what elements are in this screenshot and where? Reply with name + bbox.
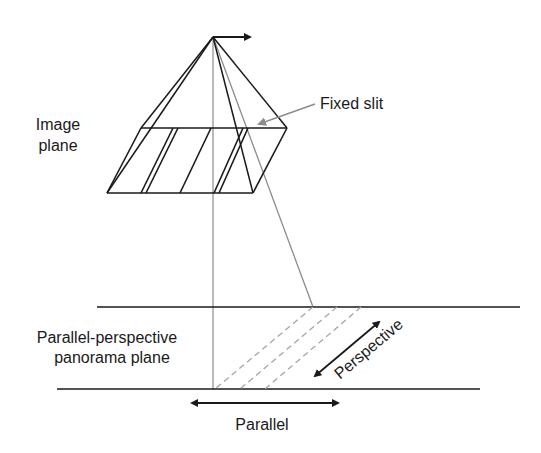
perspective-label: Perspective (331, 315, 406, 382)
diagram-canvas: Image plane Fixed slit Parallel-perspect… (0, 0, 541, 453)
image-plane-label-line1: Image (36, 116, 81, 133)
image-plane-label-line2: plane (38, 137, 77, 154)
image-plane (107, 128, 287, 193)
parallel-label: Parallel (235, 416, 288, 433)
view-pyramid (107, 37, 287, 193)
fixed-slit-pointer (259, 104, 315, 124)
panorama-plane-label-line1: Parallel-perspective (37, 329, 178, 346)
panorama-plane-label-line2: panorama plane (54, 349, 170, 366)
fixed-slit-label: Fixed slit (320, 95, 384, 112)
diagram-svg: Image plane Fixed slit Parallel-perspect… (0, 0, 541, 453)
